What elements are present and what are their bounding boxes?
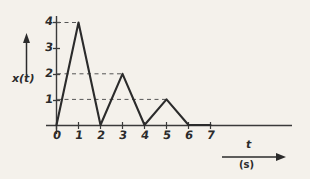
y-tick-label-2: 2 <box>44 68 54 80</box>
y-axis-arrow-icon <box>23 33 30 75</box>
x-tick-label-6: 6 <box>184 130 194 142</box>
dashed-leader-lines <box>57 23 167 100</box>
y-tick-label-4: 4 <box>44 16 54 28</box>
x-tick-label-2: 2 <box>96 130 106 142</box>
y-axis-label: x(t) <box>12 73 34 84</box>
x-tick-label-4: 4 <box>140 130 150 142</box>
x-tick-label-0: 0 <box>52 130 62 142</box>
x-axis-unit-label: (s) <box>239 160 254 170</box>
x-tick-label-5: 5 <box>162 130 172 142</box>
y-tick-label-3: 3 <box>44 42 54 54</box>
x-tick-label-3: 3 <box>118 130 128 142</box>
x-tick-label-7: 7 <box>206 130 216 142</box>
y-tick-label-1: 1 <box>44 94 54 106</box>
x-axis-label: t <box>246 139 251 150</box>
x-tick-label-1: 1 <box>74 130 84 142</box>
